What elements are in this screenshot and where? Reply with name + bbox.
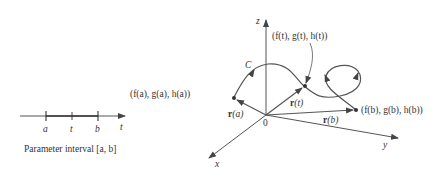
tick-label-a: a [43, 124, 48, 134]
y-axis-label: y [382, 140, 388, 150]
vector-r-b [266, 110, 353, 115]
point-start [232, 96, 236, 100]
x-axis [209, 115, 266, 158]
vector-r-b-label: r(b) [323, 115, 338, 126]
tick-label-b: b [95, 124, 100, 134]
x-axis-label: x [214, 159, 220, 169]
curve-label-c: C [245, 60, 252, 70]
vector-r-a-label: r(a) [228, 109, 243, 120]
point-end [354, 108, 358, 112]
middle-pointer-arrow [306, 43, 313, 83]
parameter-interval-caption: Parameter interval [a, b] [24, 144, 116, 154]
point-middle-label: (f(t), g(t), h(t)) [272, 31, 327, 42]
vector-r-t-label: r(t) [290, 98, 303, 109]
point-end-label: (f(b), g(b), h(b)) [361, 105, 423, 116]
point-start-label: (f(a), g(a), h(a)) [130, 89, 190, 100]
space-curve-diagram: a t b t Parameter interval [a, b] z x y … [0, 0, 448, 178]
tick-label-t: t [70, 124, 73, 134]
parameter-interval: a t b t Parameter interval [a, b] [20, 111, 125, 154]
origin-label: 0 [263, 118, 268, 128]
z-axis-label: z [255, 16, 260, 26]
point-middle [303, 84, 307, 88]
t-axis-label: t [120, 122, 123, 132]
position-vectors: r(a) r(t) r(b) [228, 88, 353, 126]
